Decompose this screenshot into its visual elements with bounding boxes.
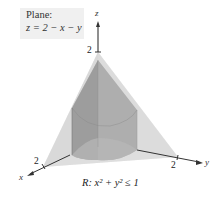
y-axis-label: y bbox=[205, 157, 209, 167]
z-tick-label: 2 bbox=[87, 45, 92, 55]
y-tick bbox=[177, 155, 178, 160]
x-tick-label: 2 bbox=[34, 156, 39, 166]
region-label: R: x² + y² ≤ 1 bbox=[82, 177, 139, 188]
3d-solid-diagram bbox=[0, 0, 220, 202]
z-axis-arrow-icon bbox=[96, 21, 100, 27]
z-axis-label: z bbox=[95, 8, 99, 18]
y-tick-label: 2 bbox=[171, 160, 176, 170]
x-axis-label: x bbox=[19, 172, 23, 182]
y-axis-arrow-icon bbox=[196, 160, 203, 165]
diagram-figure: Plane: z = 2 − x − y z 2 bbox=[0, 0, 220, 202]
x-axis-arrow-icon bbox=[27, 171, 34, 176]
